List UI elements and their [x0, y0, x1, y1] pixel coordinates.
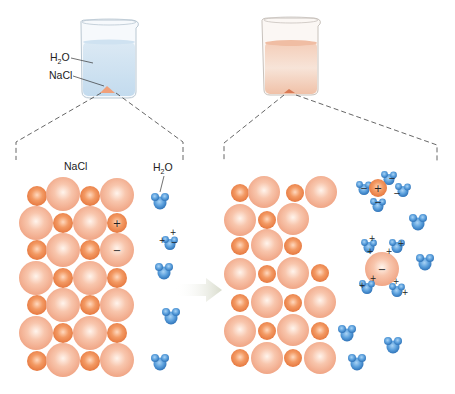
anion-charge-label: − — [113, 245, 121, 256]
water-molecule — [162, 308, 180, 325]
svg-text:+: + — [170, 228, 177, 237]
label-h2o-panel: H2O — [153, 161, 173, 175]
label-nacl-beaker: NaCl — [49, 69, 72, 81]
left-beaker — [81, 19, 139, 98]
svg-text:+: + — [359, 281, 366, 290]
free-water-molecules-left: + + − — [151, 193, 180, 371]
nacl-crystal-lattice: + − — [19, 177, 134, 377]
water-molecule — [409, 214, 427, 231]
cation-charge-label: + — [113, 218, 121, 229]
svg-text:+: + — [374, 183, 382, 194]
svg-text:+: + — [370, 274, 377, 283]
svg-text:−: − — [171, 238, 178, 247]
water-molecule — [338, 325, 356, 342]
free-water-molecules-right — [338, 214, 434, 371]
process-arrow — [175, 278, 222, 302]
dissolving-lattice — [224, 176, 337, 374]
hydrated-sodium-ion: + − − − − — [356, 171, 411, 212]
svg-text:+: + — [159, 236, 166, 245]
beaker-solution — [265, 42, 317, 94]
hydrated-chloride-ion: − + + + + + + + + — [359, 234, 409, 298]
water-molecule — [416, 254, 434, 271]
svg-text:+: + — [393, 277, 400, 286]
svg-text:−: − — [378, 264, 386, 275]
svg-text:−: − — [388, 173, 396, 183]
leader-line-h2o-panel — [160, 176, 164, 192]
svg-text:+: + — [402, 288, 409, 297]
svg-text:−: − — [360, 183, 368, 193]
svg-text:+: + — [398, 239, 405, 248]
label-nacl-panel: NaCl — [64, 160, 87, 172]
svg-text:+: + — [367, 247, 374, 256]
water-molecule — [384, 337, 402, 354]
zoom-guides — [16, 93, 437, 162]
water-molecule — [151, 354, 169, 371]
right-beaker — [262, 17, 321, 95]
water-molecule — [151, 193, 169, 210]
svg-text:+: + — [386, 247, 393, 256]
water-molecule — [348, 354, 366, 371]
svg-text:−: − — [374, 197, 382, 207]
nacl-dissolution-diagram: H2O NaCl NaCl H2O + − — [0, 0, 455, 394]
svg-text:+: + — [369, 234, 376, 243]
label-h2o-beaker: H2O — [50, 51, 70, 65]
water-molecule-charged: + + − — [159, 228, 178, 251]
water-molecule — [155, 263, 173, 280]
svg-text:−: − — [393, 188, 401, 198]
